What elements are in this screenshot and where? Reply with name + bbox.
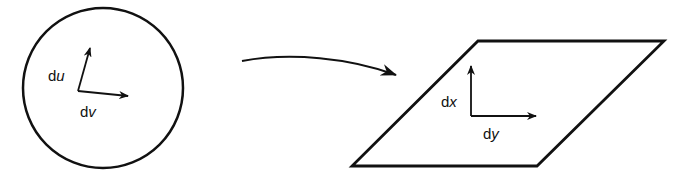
label-dx: dx bbox=[441, 94, 457, 109]
label-du-var: u bbox=[56, 67, 64, 84]
diagram-canvas bbox=[0, 0, 691, 181]
label-du: du bbox=[48, 68, 65, 83]
label-dv: dv bbox=[80, 104, 96, 119]
label-dy-var: y bbox=[491, 125, 499, 142]
label-dy: dy bbox=[483, 126, 499, 141]
du-vector bbox=[78, 48, 90, 91]
label-dv-var: v bbox=[88, 103, 96, 120]
target-parallelogram bbox=[352, 41, 664, 166]
dv-vector bbox=[78, 91, 128, 96]
label-dx-var: x bbox=[449, 93, 457, 110]
source-circle bbox=[23, 8, 183, 168]
mapping-arrow bbox=[242, 57, 396, 75]
